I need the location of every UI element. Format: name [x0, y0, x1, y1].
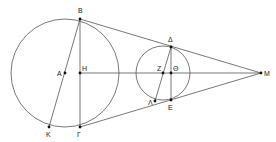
point-h	[79, 72, 82, 75]
point-e	[170, 99, 173, 102]
point-theta	[170, 72, 173, 75]
point-z	[162, 72, 165, 75]
label-e: Ε	[168, 104, 173, 111]
point-b	[79, 18, 82, 21]
label-theta: Θ	[173, 65, 179, 72]
label-a: Α	[57, 70, 62, 77]
label-k: Κ	[46, 131, 51, 138]
label-b: Β	[78, 7, 83, 14]
label-lambda: Λ	[148, 99, 153, 106]
point-k	[48, 126, 51, 129]
point-gamma	[79, 126, 82, 129]
label-m: Μ	[264, 70, 270, 77]
label-delta: Δ	[168, 36, 173, 43]
label-gamma: Γ	[77, 131, 81, 138]
point-a	[64, 72, 67, 75]
label-z: Ζ	[157, 65, 162, 72]
point-delta	[170, 46, 173, 49]
point-lambda	[154, 100, 157, 103]
point-m	[260, 72, 263, 75]
label-h: Η	[82, 65, 87, 72]
geometry-diagram: ΒΑΗΚΓΔΖΘΛΕΜ	[0, 0, 276, 142]
